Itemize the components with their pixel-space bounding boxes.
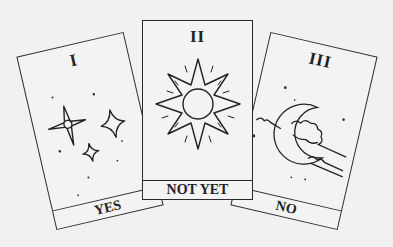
tarot-spread: I YES III (0, 0, 393, 247)
card-label: NO (274, 198, 298, 217)
sun-icon (143, 21, 254, 201)
card-not-yet[interactable]: II NOT YET (142, 20, 253, 200)
card-label: NOT YET (167, 182, 229, 197)
card-label: YES (93, 197, 123, 218)
card-label-bar: NOT YET (143, 180, 252, 199)
